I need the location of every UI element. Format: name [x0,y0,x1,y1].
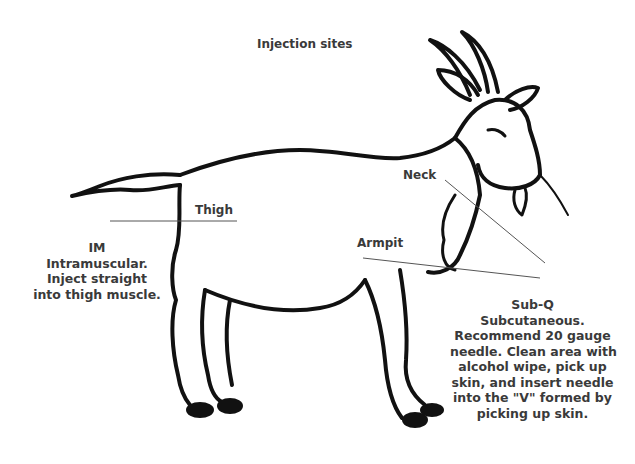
subq-line: picking up skin. [450,406,615,422]
subq-line: alcohol wipe, pick up [450,359,615,375]
eye [488,129,505,136]
armpit-pointer-line [363,258,540,278]
hoof [186,402,214,418]
beard [514,188,527,215]
subq-line: Subcutaneous. [450,313,615,329]
label-neck: Neck [403,168,436,183]
hoof [420,403,444,417]
sprig [540,175,568,215]
tail [72,174,180,196]
subq-line: skin, and insert needle [450,375,615,391]
im-line: into thigh muscle. [22,287,172,303]
im-description: IM Intramuscular. Inject straight into t… [22,240,172,302]
neck-outline [428,138,480,273]
im-heading: IM [22,240,172,256]
im-line: Inject straight [22,271,172,287]
subq-heading: Sub-Q [450,297,615,313]
ear-right [505,87,538,110]
subq-line: Recommend 20 gauge [450,328,615,344]
label-armpit: Armpit [357,236,403,251]
diagram-title: Injection sites [257,37,352,52]
hind-leg [172,185,190,405]
head [455,100,540,189]
subq-description: Sub-Q Subcutaneous. Recommend 20 gauge n… [450,297,615,421]
label-thigh: Thigh [195,203,233,218]
hoof [217,398,243,414]
im-line: Intramuscular. [22,256,172,272]
subq-line: into the "V" formed by [450,390,615,406]
front-leg [365,280,402,418]
subq-line: needle. Clean area with [450,344,615,360]
